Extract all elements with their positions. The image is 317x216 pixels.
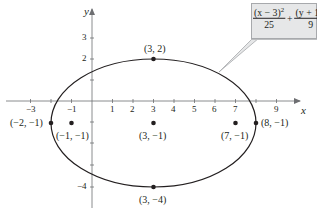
x-tick-label: 5 [192,105,197,114]
x-tick-label: −3 [26,105,36,114]
point-focus-left [69,121,74,126]
point-label: (−2, −1) [10,118,43,128]
callout-pointer [219,38,259,72]
y-tick-label: −4 [77,182,87,191]
x-tick-label: 9 [274,105,279,114]
equation-plus: + [287,13,293,24]
point-label: (8, −1) [261,118,288,128]
point-vertex-left [49,121,54,126]
point-vertex-right [254,121,259,126]
equation: (x − 3)2 25 + (y + 1)2 9 = 1 [253,7,314,30]
x-tick-label: 1 [110,105,115,114]
x-tick-label: 7 [233,105,238,114]
x-tick-label: 2 [130,105,135,114]
y-axis-label: y [84,6,89,17]
point-label: (3, 2) [144,44,166,54]
y-tick-label: 3 [82,33,87,42]
points [49,57,259,190]
point-co-vertex-bottom [151,185,156,190]
x-tick-label: 6 [212,105,217,114]
point-focus-right [233,121,238,126]
x-tick-label: 4 [171,105,176,114]
x-tick-label: −1 [67,105,77,114]
x-axis-label: x [301,105,306,116]
point-center [151,121,156,126]
point-label: (3, −1) [139,131,166,141]
point-label: (7, −1) [221,131,248,141]
point-label: (−1, −1) [56,131,89,141]
point-label: (3, −4) [139,195,166,205]
y-axis [89,8,95,208]
y-tick-label: 2 [82,54,87,63]
equation-term1: (x − 3)2 25 [253,7,285,30]
point-co-vertex-top [151,57,156,62]
equation-term2: (y + 1)2 9 [295,7,317,30]
x-tick-label: 3 [151,105,156,114]
